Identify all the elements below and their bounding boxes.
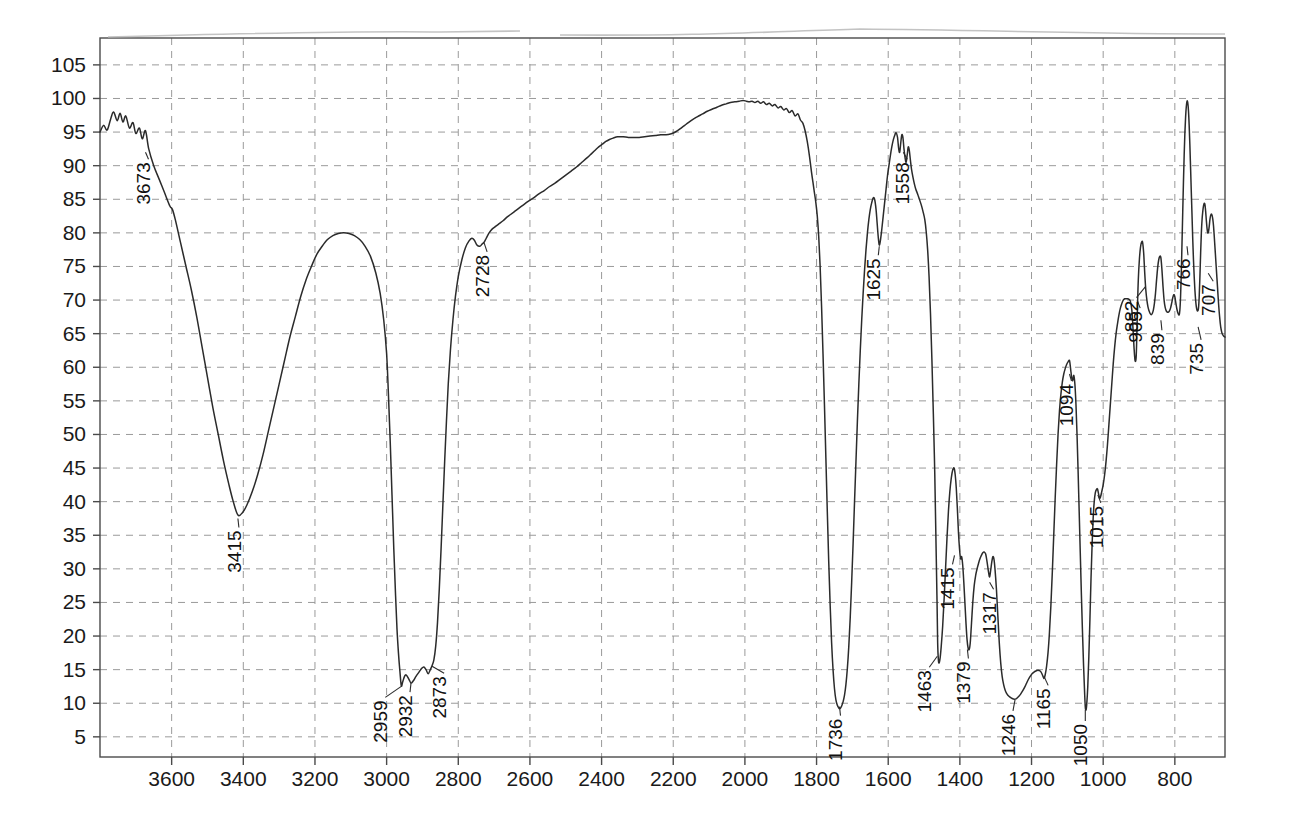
x-axis-tick-label: 2400 bbox=[578, 767, 625, 790]
axis-tick-marks bbox=[93, 65, 1175, 765]
x-axis-tick-label: 1800 bbox=[793, 767, 840, 790]
y-axis-tick-label: 70 bbox=[63, 288, 86, 311]
peak-label-3415: 3415 bbox=[224, 519, 245, 573]
peak-leader-line bbox=[1187, 246, 1188, 255]
x-axis-tick-label: 3600 bbox=[148, 767, 195, 790]
y-axis-tick-labels: 1051009590858075706560555045403530252015… bbox=[51, 53, 86, 748]
peak-label-text: 2932 bbox=[395, 695, 416, 737]
y-axis-tick-label: 25 bbox=[63, 590, 86, 613]
y-axis-tick-label: 10 bbox=[63, 691, 86, 714]
x-axis-tick-label: 800 bbox=[1157, 767, 1192, 790]
y-axis-tick-label: 60 bbox=[63, 355, 86, 378]
peak-label-766: 766 bbox=[1173, 246, 1194, 290]
peak-label-1736: 1736 bbox=[825, 707, 846, 761]
spectrum-canvas: 1051009590858075706560555045403530252015… bbox=[0, 0, 1292, 834]
peak-label-text: 707 bbox=[1198, 284, 1219, 316]
peak-label-text: 3415 bbox=[224, 530, 245, 572]
peak-label-1463: 1463 bbox=[914, 656, 937, 712]
peak-leader-line bbox=[484, 243, 487, 252]
peak-label-1379: 1379 bbox=[953, 650, 974, 704]
peak-label-2873: 2873 bbox=[429, 666, 450, 718]
peak-label-text: 2873 bbox=[429, 676, 450, 718]
ir-spectrum-chart: 1051009590858075706560555045403530252015… bbox=[0, 0, 1292, 834]
peak-label-2932: 2932 bbox=[395, 683, 416, 737]
peak-label-text: 1625 bbox=[863, 258, 884, 300]
x-axis-tick-label: 3200 bbox=[292, 767, 339, 790]
peak-leader-line bbox=[953, 555, 955, 564]
y-axis-tick-label: 5 bbox=[74, 725, 86, 748]
peak-label-text: 1317 bbox=[979, 592, 1000, 634]
peak-leader-line bbox=[878, 246, 879, 255]
peak-label-text: 1015 bbox=[1086, 506, 1107, 548]
peak-label-1415: 1415 bbox=[937, 555, 958, 609]
peak-label-1246: 1246 bbox=[998, 700, 1019, 756]
x-axis-tick-label: 2600 bbox=[507, 767, 554, 790]
peak-label-707: 707 bbox=[1198, 273, 1219, 316]
peak-leader-line bbox=[1161, 320, 1162, 330]
peak-label-2728: 2728 bbox=[472, 243, 493, 297]
peak-label-text: 1246 bbox=[998, 714, 1019, 756]
x-axis-tick-label: 1000 bbox=[1080, 767, 1127, 790]
peak-label-text: 1050 bbox=[1070, 724, 1091, 766]
peak-label-text: 1415 bbox=[937, 567, 958, 609]
y-axis-tick-label: 20 bbox=[63, 624, 86, 647]
peak-label-text: 2959 bbox=[370, 700, 391, 742]
x-axis-tick-label: 3000 bbox=[363, 767, 410, 790]
peak-leader-line bbox=[990, 582, 994, 589]
peak-label-1050: 1050 bbox=[1070, 710, 1091, 766]
x-axis-tick-labels: 3600340032003000280026002400220020001800… bbox=[148, 767, 1192, 790]
y-axis-tick-label: 35 bbox=[63, 523, 86, 546]
peak-label-text: 882 bbox=[1121, 301, 1142, 333]
peak-label-text: 1094 bbox=[1057, 384, 1078, 427]
peak-label-1015: 1015 bbox=[1086, 495, 1107, 548]
peak-label-text: 766 bbox=[1173, 258, 1194, 290]
y-axis-tick-label: 80 bbox=[63, 221, 86, 244]
y-axis-tick-label: 100 bbox=[51, 86, 86, 109]
y-axis-tick-label: 95 bbox=[63, 120, 86, 143]
y-axis-tick-label: 75 bbox=[63, 254, 86, 277]
x-axis-tick-label: 1600 bbox=[865, 767, 912, 790]
peak-label-882: 882 bbox=[1121, 287, 1145, 333]
peak-leader-line bbox=[1208, 273, 1213, 281]
y-axis-tick-label: 85 bbox=[63, 187, 86, 210]
peak-label-1165: 1165 bbox=[1033, 676, 1054, 729]
peak-label-839: 839 bbox=[1147, 320, 1168, 365]
x-axis-tick-label: 1200 bbox=[1008, 767, 1055, 790]
x-axis-tick-label: 3400 bbox=[220, 767, 267, 790]
peak-label-text: 1736 bbox=[825, 719, 846, 761]
y-axis-tick-label: 105 bbox=[51, 53, 86, 76]
peak-label-text: 839 bbox=[1147, 333, 1168, 365]
peak-leader-line bbox=[1013, 700, 1015, 711]
y-axis-tick-label: 55 bbox=[63, 389, 86, 412]
peak-leader-line bbox=[238, 519, 239, 528]
x-axis-tick-label: 1400 bbox=[937, 767, 984, 790]
peak-label-text: 1463 bbox=[914, 670, 935, 712]
peak-label-text: 735 bbox=[1186, 343, 1207, 375]
peak-leader-line bbox=[929, 656, 937, 667]
y-axis-tick-label: 65 bbox=[63, 322, 86, 345]
x-axis-tick-label: 2800 bbox=[435, 767, 482, 790]
peak-leader-line bbox=[146, 152, 149, 159]
peak-label-text: 2728 bbox=[472, 255, 493, 297]
peak-leader-line bbox=[1044, 676, 1048, 685]
scan-artifact-line bbox=[108, 29, 1225, 37]
y-axis-tick-label: 15 bbox=[63, 658, 86, 681]
y-axis-tick-label: 50 bbox=[63, 422, 86, 445]
peak-leader-line bbox=[967, 650, 968, 659]
y-axis-tick-label: 90 bbox=[63, 154, 86, 177]
x-axis-tick-label: 2000 bbox=[722, 767, 769, 790]
peak-leader-line bbox=[410, 683, 411, 692]
y-axis-tick-label: 40 bbox=[63, 490, 86, 513]
x-axis-tick-label: 2200 bbox=[650, 767, 697, 790]
peak-label-text: 1558 bbox=[892, 162, 913, 204]
peak-label-text: 1165 bbox=[1033, 688, 1054, 729]
y-axis-tick-label: 30 bbox=[63, 557, 86, 580]
y-axis-tick-label: 45 bbox=[63, 456, 86, 479]
peak-label-text: 3673 bbox=[134, 162, 155, 204]
peak-label-text: 1379 bbox=[953, 661, 974, 703]
